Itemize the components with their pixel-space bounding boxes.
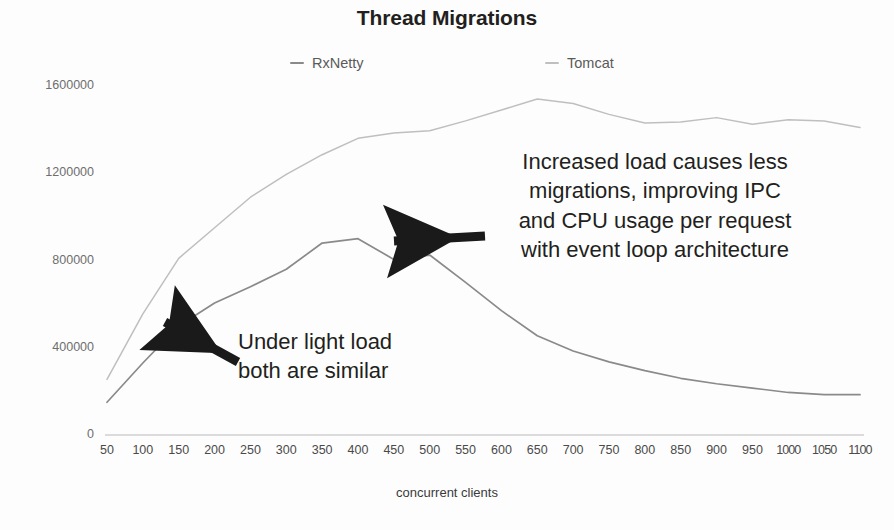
x-tick-label: 650 xyxy=(522,444,552,457)
x-tick-label: 700 xyxy=(558,444,588,457)
x-tick-label: 300 xyxy=(271,444,301,457)
x-tick-label: 750 xyxy=(594,444,624,457)
x-tick-label: 1000 xyxy=(771,444,805,457)
slide-canvas: Thread Migrations RxNetty Tomcat 0400000… xyxy=(0,0,894,530)
x-tick-label: 1050 xyxy=(807,444,841,457)
x-axis-title: concurrent clients xyxy=(0,485,894,500)
x-tick-label: 450 xyxy=(379,444,409,457)
y-tick-label: 800000 xyxy=(22,254,94,267)
annotation-heavy-load: Increased load causes less migrations, i… xyxy=(470,147,840,264)
x-tick-label: 350 xyxy=(307,444,337,457)
x-tick-label: 1100 xyxy=(843,444,877,457)
y-tick-label: 1200000 xyxy=(22,166,94,179)
x-tick-label: 850 xyxy=(666,444,696,457)
annotation-light-load: Under light load both are similar xyxy=(238,327,498,386)
x-tick-label: 150 xyxy=(164,444,194,457)
y-tick-label: 400000 xyxy=(22,341,94,354)
x-tick-label: 400 xyxy=(343,444,373,457)
x-tick-label: 800 xyxy=(630,444,660,457)
x-tick-label: 550 xyxy=(451,444,481,457)
x-tick-label: 950 xyxy=(737,444,767,457)
x-tick-label: 50 xyxy=(92,444,122,457)
x-tick-label: 200 xyxy=(200,444,230,457)
x-tick-label: 600 xyxy=(486,444,516,457)
x-tick-label: 100 xyxy=(128,444,158,457)
y-tick-label: 1600000 xyxy=(22,79,94,92)
x-tick-label: 500 xyxy=(415,444,445,457)
y-tick-label: 0 xyxy=(22,428,94,441)
x-tick-label: 250 xyxy=(235,444,265,457)
annotation-arrow-light-load xyxy=(165,322,238,362)
x-tick-label: 900 xyxy=(702,444,732,457)
